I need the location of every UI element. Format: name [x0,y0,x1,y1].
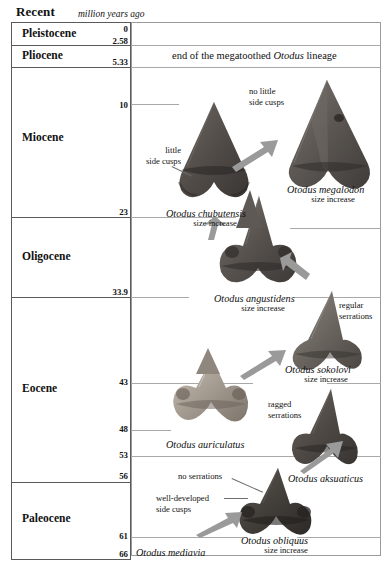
epoch-label-pliocene: Pliocene [22,49,63,61]
annotation-regular-serrations-line2: serrations [339,311,372,322]
tie-line-33-9 [131,297,189,298]
tick-value-33-9: 33.9 [84,287,128,297]
tie-line-angustidens-right [290,228,381,229]
caption-otodus-chubutensis-sub: size increase [166,218,264,228]
arrow-mediavia-to-obliquus [196,512,244,538]
tick-value-61: 61 [84,531,128,541]
caption-otodus-sokolovi-sub: size increase [285,374,367,384]
caption-otodus-obliquus-sub: size increase [241,545,331,555]
annotation-ragged-serrations-line1: ragged [268,399,301,410]
annotation-well-developed-side-cusps: well-developed side cusps [156,493,209,514]
epoch-label-oligocene: Oligocene [22,250,71,262]
annotation-regular-serrations: regular serrations [339,300,372,321]
annotation-little-side-cusps: little side cusps [135,145,181,166]
arrow-auriculatus-to-sokolovi [240,350,288,380]
annotation-ragged-serrations-line2: serrations [268,410,301,421]
caption-otodus-auriculatus: Otodus auriculatus [166,439,244,450]
tick-value-43: 43 [84,377,128,387]
tie-line-2-58 [131,45,381,46]
caption-otodus-aksuaticus: Otodus aksuaticus [288,473,363,484]
annotation-no-little-side-cusps-line1: no little [249,86,284,97]
annotation-no-serrations: no serrations [178,471,222,482]
caption-otodus-megalodon-sub: size increase [287,194,379,204]
tick-value-56: 56 [84,471,128,481]
banner-text-after: lineage [304,50,337,61]
leader-well-developed-side-cusps [224,498,248,499]
annotation-little-side-cusps-line2: side cusps [135,156,181,167]
annotation-no-little-side-cusps: no little side cusps [249,86,284,107]
arrow-obliquus-to-aksuaticus [300,440,344,474]
tick-value-23: 23 [84,207,128,217]
tick-value-0: 0 [84,24,128,34]
tick-value-66: 66 [84,549,128,559]
tie-line-5-33 [131,67,381,68]
annotation-no-little-side-cusps-line2: side cusps [249,97,284,108]
epoch-divider-eocene-paleocene [11,482,131,483]
tie-line-48 [131,430,171,431]
annotation-well-developed-line2: side cusps [156,504,209,515]
epoch-divider-pliocene-miocene [11,67,131,68]
lineage-banner: end of the megatoothed Otodus lineage [172,50,337,61]
banner-text-before: end of the megatoothed [172,50,273,61]
banner-genus: Otodus [273,50,303,61]
caption-otodus-angustidens-sub: size increase [214,303,312,313]
epoch-label-paleocene: Paleocene [22,512,71,524]
annotation-little-side-cusps-line1: little [135,145,181,156]
annotation-ragged-serrations: ragged serrations [268,399,301,420]
epoch-label-eocene: Eocene [22,382,57,394]
tick-value-53: 53 [84,450,128,460]
epoch-divider-oligocene-eocene [11,297,131,298]
tooth-partial-auriculatus-crown [188,348,224,376]
units-label: million years ago [78,9,145,19]
tick-value-5-33: 5.33 [84,57,128,67]
epoch-divider-miocene-oligocene [11,217,131,218]
tick-value-48: 48 [84,424,128,434]
annotation-well-developed-line1: well-developed [156,493,209,504]
tick-value-2-58: 2.58 [84,36,128,46]
annotation-regular-serrations-line1: regular [339,300,372,311]
figure-root: Recent million years ago Pleistocene Pli… [0,0,392,571]
arrow-sokolovi-to-angustidens [280,252,312,282]
arrow-chubutensis-to-megalodon [232,140,280,172]
tie-line-10 [131,104,179,105]
recent-label: Recent [16,4,55,20]
epoch-label-pleistocene: Pleistocene [22,27,76,39]
tick-value-10: 10 [84,100,128,110]
epoch-label-miocene: Miocene [22,131,64,143]
caption-otodus-mediavia: Otodus mediavia [136,547,205,558]
